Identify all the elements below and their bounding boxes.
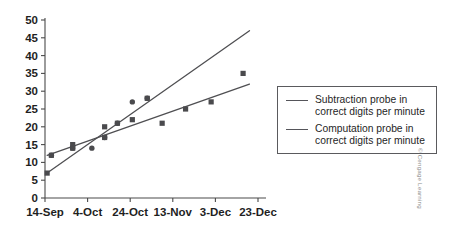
y-tick-label: 20 — [25, 121, 38, 133]
data-point-marker — [45, 170, 50, 175]
data-point-marker — [130, 117, 135, 122]
data-point-marker — [130, 99, 135, 104]
legend-item-subtraction: Subtraction probe in correct digits per … — [286, 94, 428, 119]
data-point-marker — [115, 121, 120, 126]
x-tick-label: 4-Oct — [73, 206, 103, 218]
data-point-marker — [102, 135, 107, 140]
y-axis: 05101520253035404550 — [25, 14, 45, 204]
x-tick-label: 13-Nov — [154, 206, 193, 218]
y-tick-label: 45 — [25, 32, 38, 44]
data-point-marker — [49, 153, 54, 158]
y-tick-label: 5 — [32, 174, 39, 186]
y-tick-label: 15 — [25, 139, 38, 151]
legend-line-swatch-computation — [286, 129, 308, 130]
legend-label-computation-line2: correct digits per minute — [315, 135, 425, 146]
data-point-marker — [102, 124, 107, 129]
y-tick-label: 50 — [25, 14, 38, 26]
chart-figure: 05101520253035404550 14-Sep4-Oct24-Oct13… — [0, 0, 460, 237]
data-point-marker — [89, 145, 94, 150]
data-point-marker — [70, 146, 75, 151]
x-axis: 14-Sep4-Oct24-Oct13-Nov3-Dec23-Dec — [26, 198, 277, 218]
y-tick-label: 30 — [25, 85, 38, 97]
y-tick-label: 35 — [25, 67, 38, 79]
data-point-marker — [240, 71, 245, 76]
x-tick-label: 23-Dec — [239, 206, 277, 218]
legend-label-subtraction-line2: correct digits per minute — [315, 106, 425, 117]
x-tick-label: 3-Dec — [200, 206, 232, 218]
data-series-group — [45, 31, 250, 176]
x-tick-label: 14-Sep — [26, 206, 64, 218]
trend-line — [47, 31, 249, 173]
data-point-marker — [183, 106, 188, 111]
y-tick-label: 25 — [25, 103, 38, 115]
x-tick-label: 24-Oct — [112, 206, 148, 218]
legend-label-subtraction-line1: Subtraction probe in — [315, 94, 407, 105]
data-point-marker — [145, 96, 150, 101]
legend-label-computation-line1: Computation probe in — [315, 123, 413, 134]
legend-label-subtraction: Subtraction probe in correct digits per … — [315, 94, 425, 119]
chart-legend: Subtraction probe in correct digits per … — [277, 86, 437, 154]
y-tick-label: 10 — [25, 156, 38, 168]
legend-label-computation: Computation probe in correct digits per … — [315, 123, 425, 148]
y-tick-label: 0 — [32, 192, 38, 204]
legend-line-swatch-subtraction — [286, 100, 308, 101]
y-tick-label: 40 — [25, 50, 38, 62]
data-point-marker — [160, 121, 165, 126]
data-point-marker — [209, 99, 214, 104]
trend-line — [47, 84, 249, 155]
legend-item-computation: Computation probe in correct digits per … — [286, 123, 428, 148]
copyright-notice: © Cengage Learning — [417, 148, 424, 209]
